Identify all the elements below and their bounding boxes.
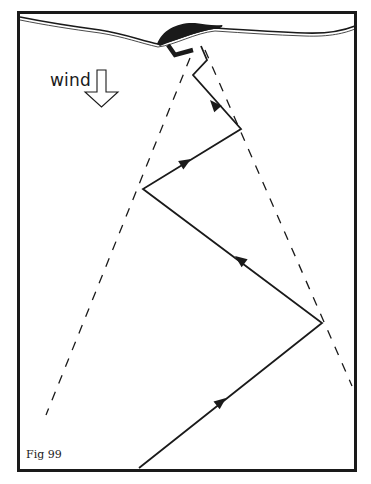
cone-left-edge xyxy=(46,58,190,415)
scent-cone xyxy=(46,50,352,415)
zigzag-track xyxy=(139,46,322,468)
track-arrows xyxy=(178,97,247,410)
arrowhead-icon xyxy=(178,155,193,170)
target-mound-icon xyxy=(157,23,223,46)
bracket-marker-icon xyxy=(168,45,193,55)
figure-caption: Fig 99 xyxy=(26,448,62,461)
cone-right-edge xyxy=(205,50,352,386)
wind-label: wind xyxy=(50,70,91,90)
